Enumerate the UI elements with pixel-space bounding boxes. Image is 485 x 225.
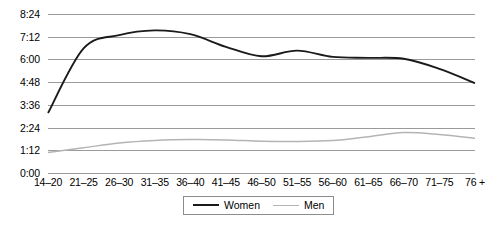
legend-item-women: Women — [193, 199, 260, 211]
legend-swatch-men-icon — [273, 205, 299, 206]
x-axis-tick-label: 36–40 — [176, 176, 204, 188]
x-axis-tick-label: 21–25 — [69, 176, 97, 188]
x-axis-tick-label: 51–55 — [283, 176, 311, 188]
series-layer — [48, 14, 475, 173]
x-axis-tick-label: 71–75 — [425, 176, 453, 188]
x-axis-tick-label: 31–35 — [141, 176, 169, 188]
y-axis-tick-label: 2:24 — [20, 122, 40, 134]
x-axis: 14–2021–2526–3031–3536–4041–4546–5051–55… — [48, 176, 475, 192]
y-axis: 0:001:122:243:364:486:007:128:24 — [0, 14, 44, 173]
x-axis-tick-label: 14–20 — [34, 176, 62, 188]
chart-legend: Women Men — [183, 196, 334, 215]
gridline — [48, 173, 475, 174]
y-axis-tick-label: 8:24 — [20, 8, 40, 20]
legend-item-men: Men — [273, 199, 324, 211]
x-axis-tick-label: 46–50 — [247, 176, 275, 188]
series-line-men — [48, 133, 475, 153]
series-line-women — [48, 30, 475, 113]
y-axis-tick-label: 3:36 — [20, 99, 40, 111]
x-axis-tick-label: 66–70 — [390, 176, 418, 188]
y-axis-tick-label: 6:00 — [20, 53, 40, 65]
legend-label-women: Women — [224, 199, 260, 211]
legend-swatch-women-icon — [193, 204, 219, 206]
x-axis-tick-label: 26–30 — [105, 176, 133, 188]
legend-label-men: Men — [304, 199, 324, 211]
y-axis-tick-label: 4:48 — [20, 76, 40, 88]
plot-area — [48, 14, 475, 173]
y-axis-tick-label: 7:12 — [20, 31, 40, 43]
x-axis-tick-label: 76 + — [465, 176, 485, 188]
y-axis-tick-label: 1:12 — [20, 144, 40, 156]
x-axis-tick-label: 56–60 — [319, 176, 347, 188]
x-axis-tick-label: 61–65 — [354, 176, 382, 188]
x-axis-tick-label: 41–45 — [212, 176, 240, 188]
